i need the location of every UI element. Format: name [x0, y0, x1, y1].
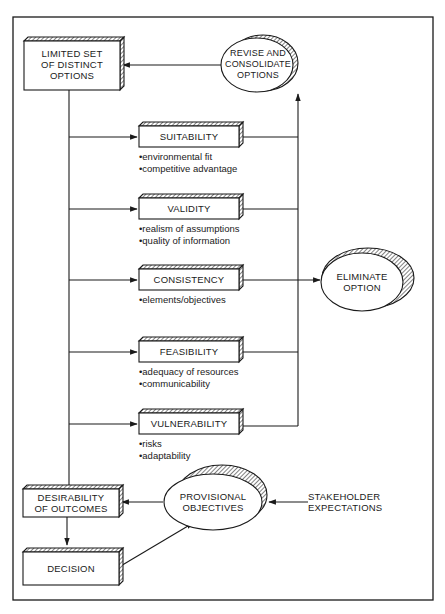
- criteria-feasibility: adequacy of resources communicability: [139, 366, 238, 390]
- criterion-item: communicability: [139, 378, 238, 390]
- label-line: DESIRABILITY: [23, 492, 119, 503]
- label-line: OPTION: [322, 282, 402, 293]
- label-line: OBJECTIVES: [164, 502, 262, 513]
- label-line: OF OUTCOMES: [23, 503, 119, 514]
- criterion-item: risks: [139, 438, 190, 450]
- label-decision: DECISION: [23, 563, 119, 574]
- criterion-item: environmental fit: [139, 151, 237, 163]
- label-line: PROVISIONAL: [164, 491, 262, 502]
- criteria-consistency: elements/objectives: [139, 294, 226, 306]
- label-eliminate: ELIMINATE OPTION: [322, 271, 402, 293]
- label-line: OF DISTINCT: [24, 59, 120, 70]
- label-validity: VALIDITY: [139, 203, 239, 214]
- label-stakeholder: STAKEHOLDER EXPECTATIONS: [308, 491, 390, 513]
- label-line: OPTIONS: [24, 70, 120, 81]
- criteria-suitability: environmental fit competitive advantage: [139, 151, 237, 175]
- criterion-item: realism of assumptions: [139, 223, 239, 235]
- criterion-item: elements/objectives: [139, 294, 226, 306]
- criterion-item: adaptability: [139, 450, 190, 462]
- label-provisional: PROVISIONAL OBJECTIVES: [164, 491, 262, 513]
- label-revise: REVISE AND CONSOLIDATE OPTIONS: [218, 48, 298, 81]
- edge-decision-provisional: [119, 523, 193, 567]
- criterion-item: competitive advantage: [139, 163, 237, 175]
- label-consistency: CONSISTENCY: [139, 274, 239, 285]
- label-line: EXPECTATIONS: [308, 502, 390, 513]
- label-vulnerability: VULNERABILITY: [139, 418, 239, 429]
- label-line: CONSOLIDATE: [218, 59, 298, 70]
- criterion-item: quality of information: [139, 235, 239, 247]
- label-limited-set: LIMITED SET OF DISTINCT OPTIONS: [24, 48, 120, 81]
- label-line: REVISE AND: [218, 48, 298, 59]
- label-line: STAKEHOLDER: [308, 491, 390, 502]
- label-desirability: DESIRABILITY OF OUTCOMES: [23, 492, 119, 514]
- criterion-item: adequacy of resources: [139, 366, 238, 378]
- criteria-vulnerability: risks adaptability: [139, 438, 190, 462]
- flowchart-canvas: [0, 0, 445, 614]
- label-feasibility: FEASIBILITY: [139, 346, 239, 357]
- criteria-validity: realism of assumptions quality of inform…: [139, 223, 239, 247]
- label-line: OPTIONS: [218, 70, 298, 81]
- label-line: ELIMINATE: [322, 271, 402, 282]
- label-suitability: SUITABILITY: [139, 131, 239, 142]
- label-line: LIMITED SET: [24, 48, 120, 59]
